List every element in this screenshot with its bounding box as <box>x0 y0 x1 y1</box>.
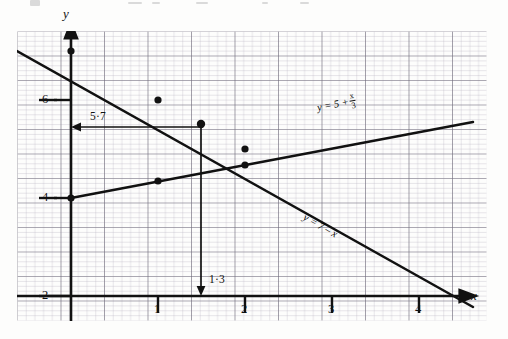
marker-point <box>67 194 74 201</box>
equation-ascending-lhs: y = 5 + <box>316 96 349 113</box>
y-tick-6: 6 <box>42 93 48 106</box>
graph-page: y x 6 4 2 1 2 3 4 5·7 1·3 y = 5 +x3 y = … <box>0 0 508 339</box>
x-tick-1: 1 <box>154 303 160 316</box>
marker-point <box>241 145 248 152</box>
marker-point <box>154 96 161 103</box>
scan-artifact <box>0 0 508 12</box>
x-tick-3: 3 <box>328 303 334 316</box>
y-tick-4: 4 <box>42 191 48 204</box>
marker-point <box>154 177 161 184</box>
y-tick-2: 2 <box>42 289 48 302</box>
annotation-x-reading: 1·3 <box>209 274 225 286</box>
x-tick-2: 2 <box>241 303 247 316</box>
graph-canvas <box>17 31 487 321</box>
marker-point <box>67 47 74 54</box>
graph-plate: y x 6 4 2 1 2 3 4 5·7 1·3 y = 5 +x3 y = … <box>17 31 487 321</box>
y-axis-label: y <box>63 7 69 20</box>
x-axis-label: x <box>471 289 477 302</box>
annotation-y-reading: 5·7 <box>90 111 106 123</box>
x-tick-4: 4 <box>415 303 421 316</box>
grid <box>17 31 487 321</box>
marker-point <box>241 161 248 168</box>
